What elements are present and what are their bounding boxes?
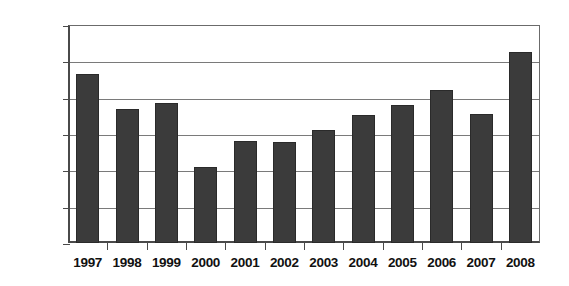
bar bbox=[470, 114, 493, 243]
y-axis-tick bbox=[63, 244, 70, 245]
bar bbox=[352, 115, 375, 243]
x-axis-tick bbox=[343, 243, 344, 250]
x-axis-label: 2008 bbox=[497, 255, 543, 270]
bar bbox=[116, 109, 139, 243]
x-axis-tick bbox=[461, 243, 462, 250]
bar bbox=[76, 74, 99, 243]
x-axis-tick bbox=[107, 243, 108, 250]
bar bbox=[273, 142, 296, 243]
x-axis-tick bbox=[501, 243, 502, 250]
bar bbox=[194, 167, 217, 243]
x-axis-tick bbox=[186, 243, 187, 250]
bar bbox=[234, 141, 257, 243]
x-axis-tick bbox=[383, 243, 384, 250]
x-axis-tick bbox=[304, 243, 305, 250]
x-axis-tick bbox=[422, 243, 423, 250]
x-axis-tick bbox=[225, 243, 226, 250]
bar bbox=[430, 90, 453, 243]
bar bbox=[391, 105, 414, 243]
bar bbox=[509, 52, 532, 243]
bar bbox=[155, 103, 178, 243]
bars-layer bbox=[68, 25, 540, 243]
bar bbox=[312, 130, 335, 243]
bar-chart: 200250300350400450500 199719981999200020… bbox=[0, 0, 569, 286]
x-axis-tick bbox=[147, 243, 148, 250]
x-axis-tick bbox=[265, 243, 266, 250]
